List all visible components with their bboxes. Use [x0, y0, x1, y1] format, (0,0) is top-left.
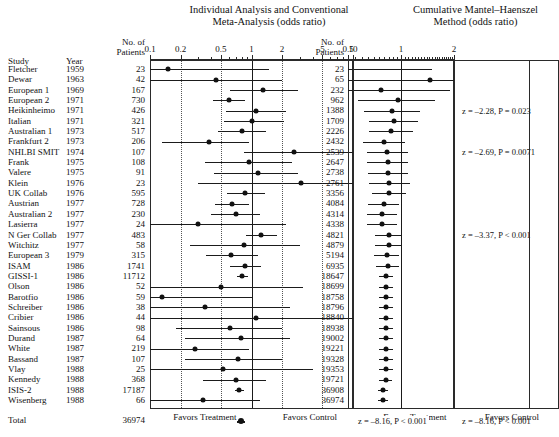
cell-year: 1973 [66, 136, 98, 146]
left-title-line1: Individual Analysis and Conventional [150, 4, 388, 16]
cell-patient-count: 38 [99, 302, 145, 312]
forest-plot-figure: Individual Analysis and Conventional Met… [0, 0, 559, 437]
cell-study-name: Austrian [8, 198, 66, 208]
cell-patient-count: 219 [99, 343, 145, 353]
cell-cumulative-count: 2226 [298, 126, 344, 136]
cell-study-name: Dewar [8, 74, 66, 84]
cell-year: 1988 [66, 385, 98, 395]
cell-cumulative-count: 2539 [298, 147, 344, 157]
cell-patient-count: 11712 [99, 271, 145, 281]
table-row: Cribier19864418840 [0, 312, 559, 322]
cell-year: 1976 [66, 188, 98, 198]
cell-study-name: Vlay [8, 364, 66, 374]
cell-year: 1977 [66, 219, 98, 229]
cell-cumulative-count: 4879 [298, 240, 344, 250]
cell-year: 1987 [66, 333, 98, 343]
cell-year: 1988 [66, 374, 98, 384]
cell-study-name: Heikinheimo [8, 105, 66, 115]
left-panel-bottom-rule [150, 408, 353, 409]
cell-cumulative-count: 18938 [298, 323, 344, 333]
right-axis: 0.512 [348, 42, 454, 60]
cell-study-name: GISSI-1 [8, 271, 66, 281]
cell-patient-count: 91 [99, 167, 145, 177]
axis-tick-label: 0.1 [144, 44, 155, 54]
cell-cumulative-count: 19328 [298, 354, 344, 364]
cell-patient-count: 98 [99, 323, 145, 333]
cell-year: 1977 [66, 230, 98, 240]
cell-patient-count: 206 [99, 136, 145, 146]
table-row: Schreiber19863818796 [0, 302, 559, 312]
cell-cumulative-count: 4084 [298, 198, 344, 208]
cell-cumulative-count: 962 [298, 95, 344, 105]
table-row: Witchitz1977584879 [0, 240, 559, 250]
cell-year: 1986 [66, 302, 98, 312]
cell-cumulative-count: 65 [298, 74, 344, 84]
cell-study-name: Lasierra [8, 219, 66, 229]
table-row: GISSI-119861171218647 [0, 271, 559, 281]
header-no-of: No. of [101, 37, 145, 47]
cell-patient-count: 426 [99, 105, 145, 115]
cell-year: 1977 [66, 209, 98, 219]
table-row: Lasierra1977244338 [0, 219, 559, 229]
table-row: Frankfurt 219732062432 [0, 136, 559, 146]
cell-study-name: N Ger Collab [8, 230, 66, 240]
left-stat-right-border [529, 60, 530, 408]
cell-cumulative-count: 2647 [298, 157, 344, 167]
table-row: European 11969167232 [0, 85, 559, 95]
cell-cumulative-count: 19353 [298, 364, 344, 374]
total-stat-annotation-left: z = –8.16, P < 0.001 [356, 416, 429, 426]
cell-study-name: NHLBI SMIT [8, 147, 66, 157]
cell-cumulative-count: 2432 [298, 136, 344, 146]
left-stat-left-border [353, 60, 354, 408]
cell-year: 1975 [66, 157, 98, 167]
cell-study-name: Sainsous [8, 323, 66, 333]
cell-study-name: ISAM [8, 261, 66, 271]
cell-cumulative-count: 6935 [298, 261, 344, 271]
axis-tick-label: 1 [399, 44, 404, 54]
axis-tick-label: 2 [280, 44, 285, 54]
cell-study-name: UK Collab [8, 188, 66, 198]
cell-year: 1974 [66, 147, 98, 157]
axis-tick-label: 0.5 [215, 44, 226, 54]
cell-patient-count: 595 [99, 188, 145, 198]
cell-study-name: Kennedy [8, 374, 66, 384]
cell-cumulative-count: 19002 [298, 333, 344, 343]
cell-patient-count: 107 [99, 147, 145, 157]
cell-study-name: European 1 [8, 85, 66, 95]
cell-study-name: European 3 [8, 250, 66, 260]
cell-year: 1977 [66, 240, 98, 250]
table-row: Sainsous19869818938 [0, 323, 559, 333]
cell-cumulative-count: 2738 [298, 167, 344, 177]
cell-cumulative-count: 1709 [298, 116, 344, 126]
cell-patient-count: 517 [99, 126, 145, 136]
cell-patient-count: 1741 [99, 261, 145, 271]
cell-study-name: White [8, 343, 66, 353]
footer-favors-control-left: Favors Control [255, 412, 365, 423]
cell-cumulative-count: 18758 [298, 292, 344, 302]
cell-cumulative-count: 232 [298, 85, 344, 95]
cell-cumulative-count: 36908 [298, 385, 344, 395]
table-row: Klein1976232761 [0, 178, 559, 188]
cell-patient-count: 728 [99, 198, 145, 208]
axis-tick-label: 5 [320, 44, 325, 54]
cell-year: 1971 [66, 116, 98, 126]
cell-year: 1971 [66, 105, 98, 115]
footer-favors-control-right: Favors Control [462, 412, 559, 423]
cell-cumulative-count: 19221 [298, 343, 344, 353]
cell-study-name: Italian [8, 116, 66, 126]
table-row: Australian 119735172226 [0, 126, 559, 136]
cell-cumulative-count: 18840 [298, 312, 344, 322]
cell-patient-count: 108 [99, 157, 145, 167]
cell-year: 1987 [66, 354, 98, 364]
cell-cumulative-count: 23 [298, 64, 344, 74]
cell-year: 1963 [66, 74, 98, 84]
right-stat-left-border [454, 60, 455, 408]
table-row: White198721919221 [0, 343, 559, 353]
cell-year: 1977 [66, 198, 98, 208]
table-row: ISIS-219881718736908 [0, 385, 559, 395]
cell-patient-count: 59 [99, 292, 145, 302]
cell-patient-count: 321 [99, 116, 145, 126]
table-row: Frank19751082647 [0, 157, 559, 167]
cell-patient-count: 230 [99, 209, 145, 219]
cell-study-name: Schreiber [8, 302, 66, 312]
